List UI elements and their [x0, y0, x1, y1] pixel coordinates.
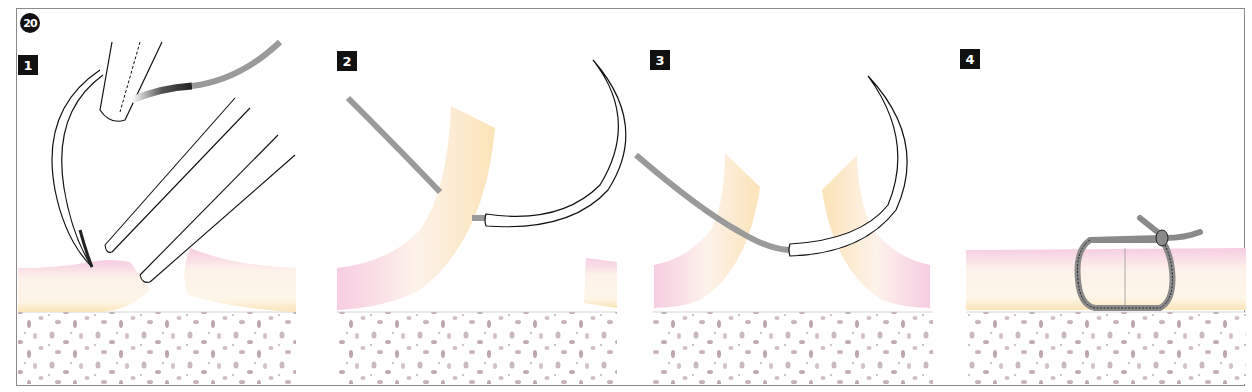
needle-holder [100, 42, 162, 121]
panel-3 [636, 76, 933, 384]
needle [485, 60, 626, 227]
bone-layer [653, 312, 933, 384]
panel-1 [18, 42, 296, 384]
step-label-4: 4 [960, 49, 980, 69]
bone-layer [966, 312, 1246, 384]
soft-tissue-left [18, 260, 150, 312]
step-label-3: 3 [650, 50, 670, 70]
suture-thread [192, 42, 280, 86]
suture-thread [348, 98, 440, 192]
illustration-canvas [0, 0, 1252, 392]
soft-tissue-flap [337, 106, 495, 310]
panel-2 [337, 60, 626, 384]
soft-tissue-opposite [584, 258, 617, 308]
soft-tissue-right [184, 248, 296, 312]
suture-knot [1156, 230, 1168, 246]
panel-4 [966, 218, 1246, 384]
bone-layer [337, 312, 617, 384]
bone-layer [18, 312, 296, 384]
soft-tissue-approximated [966, 248, 1246, 310]
step-label-2: 2 [337, 51, 357, 71]
soft-tissue-left-flap [654, 153, 760, 308]
soft-tissue-right-flap [822, 155, 930, 308]
step-label-1: 1 [18, 55, 38, 75]
